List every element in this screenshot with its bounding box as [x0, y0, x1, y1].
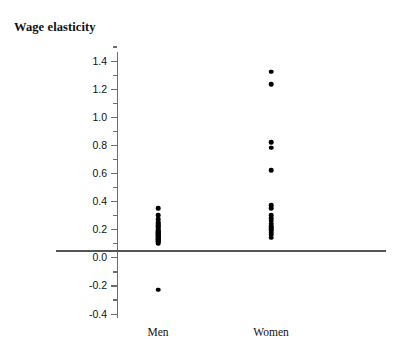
y-tick-major	[111, 173, 117, 174]
y-tick-label: -0.4	[7, 308, 107, 320]
data-point	[269, 206, 274, 211]
y-axis-line	[117, 52, 118, 318]
y-tick-minor	[113, 299, 117, 300]
y-tick-minor	[113, 187, 117, 188]
y-tick-major	[111, 145, 117, 146]
x-category-label-women: Women	[253, 326, 288, 338]
data-point	[269, 235, 274, 240]
data-point	[269, 168, 274, 173]
data-point	[269, 82, 274, 87]
y-tick-minor	[113, 215, 117, 216]
y-tick-label: 1.0	[7, 111, 107, 123]
y-tick-minor	[113, 103, 117, 104]
chart-root: Wage elasticity 1.41.21.00.80.60.40.20.0…	[0, 0, 403, 358]
y-tick-major	[111, 314, 117, 315]
chart-title: Wage elasticity	[14, 20, 96, 35]
x-category-label-men: Men	[147, 326, 168, 338]
y-tick-major	[111, 201, 117, 202]
y-tick-label: 0.8	[7, 139, 107, 151]
data-point	[156, 206, 161, 211]
data-point	[269, 140, 274, 145]
y-tick-label: 0.6	[7, 167, 107, 179]
y-tick-label: 1.4	[7, 55, 107, 67]
y-tick-minor	[113, 46, 117, 47]
y-tick-label: 0.0	[7, 251, 107, 263]
y-tick-major	[111, 257, 117, 258]
data-point	[269, 145, 274, 150]
data-point	[269, 69, 274, 74]
data-point	[156, 241, 161, 246]
y-tick-major	[111, 61, 117, 62]
y-tick-minor	[113, 243, 117, 244]
y-tick-minor	[113, 131, 117, 132]
y-tick-label: 0.2	[7, 223, 107, 235]
y-tick-major	[111, 285, 117, 286]
y-tick-major	[111, 117, 117, 118]
y-tick-minor	[113, 271, 117, 272]
data-point	[156, 287, 161, 292]
y-tick-minor	[113, 159, 117, 160]
y-tick-label: 1.2	[7, 83, 107, 95]
y-tick-label: -0.2	[7, 279, 107, 291]
y-tick-major	[111, 229, 117, 230]
y-tick-minor	[113, 75, 117, 76]
y-tick-major	[111, 89, 117, 90]
y-tick-label: 0.4	[7, 195, 107, 207]
